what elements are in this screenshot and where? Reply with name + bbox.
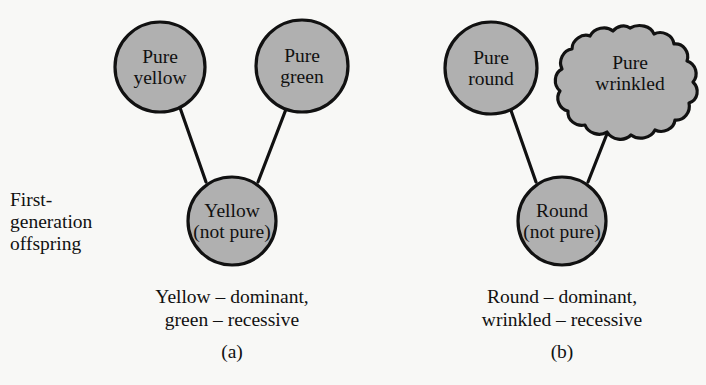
caption-panel-b-line-2: wrinkled – recessive [442, 309, 682, 332]
node-pure-wrinkled [555, 26, 697, 140]
caption-panel-a-line-1: Yellow – dominant, [112, 286, 352, 309]
gen-label-line-3: offspring [10, 233, 140, 255]
inheritance-figure: First- generation offspring Pure yellow … [0, 0, 706, 385]
first-generation-offspring-label: First- generation offspring [10, 189, 140, 256]
connector-pure-yellow-to-offspring [178, 102, 206, 182]
node-yellow-not-pure [188, 177, 276, 265]
node-pure-round [445, 22, 537, 114]
caption-panel-a-line-2: green – recessive [112, 309, 352, 332]
caption-panel-b-line-1: Round – dominant, [442, 286, 682, 309]
connector-pure-green-to-offspring [258, 104, 288, 182]
node-pure-yellow [115, 22, 205, 112]
panel-letter-b: (b) [522, 341, 602, 363]
node-round-not-pure [518, 177, 606, 265]
panel-letter-a: (a) [192, 341, 272, 363]
caption-panel-a: Yellow – dominant, green – recessive [112, 286, 352, 331]
gen-label-line-2: generation [10, 211, 140, 233]
node-pure-green [256, 20, 348, 112]
gen-label-line-1: First- [10, 189, 140, 211]
connector-pure-round-to-offspring [508, 102, 536, 182]
caption-panel-b: Round – dominant, wrinkled – recessive [442, 286, 682, 331]
